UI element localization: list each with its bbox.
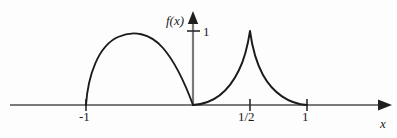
y-axis-arrowhead	[188, 11, 198, 24]
function-plot-figure: f(x) x 1 -1 1/2 1	[0, 0, 397, 138]
plot-canvas	[0, 0, 397, 138]
y-axis-label: f(x)	[166, 14, 184, 27]
x-axis-arrowhead	[378, 100, 392, 111]
y-tick-label-one: 1	[203, 25, 210, 38]
x-tick-label-half: 1/2	[238, 110, 255, 123]
x-axis-label: x	[380, 117, 386, 130]
curve-right-lobe	[193, 31, 307, 105]
x-tick-label-one: 1	[302, 110, 309, 123]
curve-left-lobe	[86, 33, 193, 105]
x-tick-label-minus-one: -1	[79, 110, 90, 123]
